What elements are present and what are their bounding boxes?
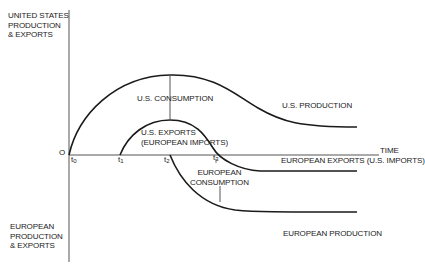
y-axis-top-label-line-3: & EXPORTS <box>8 30 69 40</box>
us-production-label: U.S. PRODUCTION <box>282 101 352 111</box>
y-axis-bottom-label-line-3: & EXPORTS <box>10 241 63 251</box>
y-axis-top-label: UNITED STATES PRODUCTION & EXPORTS <box>8 11 69 40</box>
y-axis-bottom-label-line-2: PRODUCTION <box>10 232 63 242</box>
time-mark-sub: 0 <box>73 158 76 164</box>
time-mark-sub: 1 <box>120 158 123 164</box>
us-consumption-label: U.S. CONSUMPTION <box>137 94 213 104</box>
origin-label: O <box>59 148 65 157</box>
time-mark-t3: t3 <box>213 153 219 162</box>
european-exports-label: EUROPEAN EXPORTS (U.S. IMPORTS) <box>281 156 425 166</box>
time-mark-sub: 2 <box>166 158 169 164</box>
time-mark-t0: t0 <box>71 155 77 164</box>
european-consumption-label-line-1: EUROPEAN <box>190 168 249 178</box>
time-mark-sub: 3 <box>215 156 218 162</box>
y-axis-bottom-label: EUROPEAN PRODUCTION & EXPORTS <box>10 222 63 251</box>
x-axis-label: TIME <box>380 146 399 156</box>
european-production-label: EUROPEAN PRODUCTION <box>283 229 382 239</box>
y-axis-top-label-line-2: PRODUCTION <box>8 21 69 31</box>
time-mark-t1: t1 <box>118 155 124 164</box>
us-exports-label-line-1: U.S. EXPORTS <box>141 128 228 138</box>
us-exports-label-line-2: (EUROPEAN IMPORTS) <box>141 138 228 148</box>
y-axis-bottom-label-line-1: EUROPEAN <box>10 222 63 232</box>
european-consumption-label-line-2: CONSUMPTION <box>190 178 249 188</box>
time-mark-t2: t2 <box>164 155 170 164</box>
european-consumption-label: EUROPEAN CONSUMPTION <box>190 168 249 187</box>
us-exports-label: U.S. EXPORTS (EUROPEAN IMPORTS) <box>141 128 228 147</box>
y-axis-top-label-line-1: UNITED STATES <box>8 11 69 21</box>
